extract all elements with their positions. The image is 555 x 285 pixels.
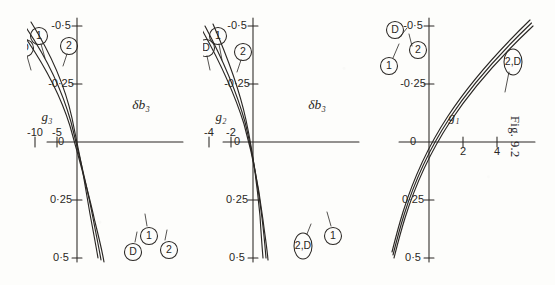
x-tick-label-0.25: 0·25: [226, 193, 248, 205]
leader-2-bottom: [237, 60, 241, 72]
panel-g2-svg: 1 2,D 1 2 D -0·5 -0·25 0 0·25 0·5 -2 -4: [203, 0, 373, 285]
y-tick-label--10: -10: [27, 126, 43, 138]
figure-plate: 2,D D 2 1 -0·5 -0·25 0 0·25 0·5 2 4: [0, 0, 555, 285]
y-tick-label--2: -2: [226, 126, 236, 138]
x-tick-label--0.25: -0·25: [400, 77, 426, 89]
leader-1-top: [327, 212, 331, 226]
curve-1: [31, 22, 98, 258]
x-tick-label-0.5: 0·5: [229, 251, 245, 263]
x-tick-label-0.25: 0·25: [402, 193, 424, 205]
figure-caption: Fig. 9.2: [507, 116, 522, 158]
leader-2D-top: [307, 224, 311, 234]
x-tick-label--0.25: -0·25: [48, 77, 74, 89]
x-axis-title: δb₃: [308, 97, 326, 112]
callout-label-2D-top: 2,D: [295, 239, 312, 251]
x-tick-label--0.5: -0·5: [403, 19, 423, 31]
y-tick-label--5: -5: [52, 126, 62, 138]
callout-label-1: 1: [386, 59, 392, 71]
y-axis-title: g₁: [448, 109, 459, 124]
figure-page: 2,D D 2 1 -0·5 -0·25 0 0·25 0·5 2 4: [0, 0, 555, 285]
leader-2D: [505, 72, 509, 92]
x-tick-label--0.5: -0·5: [227, 19, 247, 31]
leader-1-top: [145, 214, 147, 226]
x-tick-label--0.25: -0·25: [224, 77, 250, 89]
figure-caption-wrap: Fig. 9.2: [486, 112, 555, 172]
leader-D-top: [135, 232, 137, 242]
callout-label-2-top: 2: [166, 243, 172, 255]
x-tick-label-0: 0: [410, 135, 416, 147]
x-tick-label-0.25: 0·25: [50, 193, 72, 205]
x-tick-label-0.5: 0·5: [53, 251, 69, 263]
y-tick-label--4: -4: [204, 126, 214, 138]
callout-label-2-bottom: 2: [66, 39, 72, 51]
callout-label-D-bottom: D: [203, 41, 210, 53]
callout-label-1-bottom: 1: [215, 29, 221, 41]
panel-g3-svg: 1 2 D 1 2 D -0·5 -0·25 0 0·25 0·5 -5 -10: [27, 0, 197, 285]
callout-label-D: D: [391, 23, 399, 35]
callout-label-1-top: 1: [146, 229, 152, 241]
x-axis-title: δb₃: [132, 97, 150, 112]
leader-1: [393, 44, 399, 58]
y-tick-label-2: 2: [460, 145, 466, 157]
leader-2-bottom: [63, 54, 67, 66]
callout-label-D-top: D: [129, 245, 137, 257]
panel-g3: 1 2 D 1 2 D -0·5 -0·25 0 0·25 0·5 -5 -10: [27, 0, 197, 285]
callout-label-2-bottom: 2: [240, 45, 246, 57]
leader-2-top: [165, 230, 167, 240]
callout-label-2D: 2,D: [505, 55, 522, 67]
x-tick-label--0.5: -0·5: [51, 19, 71, 31]
y-axis-title: g₂: [215, 109, 227, 124]
callout-label-1-top: 1: [330, 229, 336, 241]
callout-label-1-bottom: 1: [36, 29, 42, 41]
leader-D-bottom: [207, 56, 210, 70]
y-axis-title: g₃: [41, 109, 52, 124]
callout-label-2: 2: [415, 43, 421, 55]
leader-D-bottom: [27, 56, 31, 70]
panel-g2: 1 2,D 1 2 D -0·5 -0·25 0 0·25 0·5 -2 -4: [203, 0, 373, 285]
x-tick-label-0.5: 0·5: [405, 251, 421, 263]
